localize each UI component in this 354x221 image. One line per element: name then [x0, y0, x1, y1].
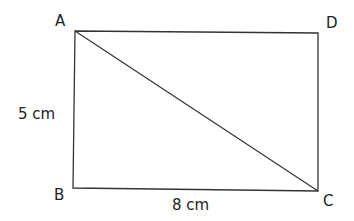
vertex-label-d: D	[326, 16, 338, 31]
vertex-label-c: C	[323, 194, 333, 209]
vertex-label-b: B	[54, 188, 64, 203]
width-dimension-label: 8 cm	[172, 198, 209, 213]
diagonal-ac	[75, 31, 318, 191]
vertex-label-a: A	[55, 14, 65, 29]
height-dimension-label: 5 cm	[18, 107, 55, 122]
